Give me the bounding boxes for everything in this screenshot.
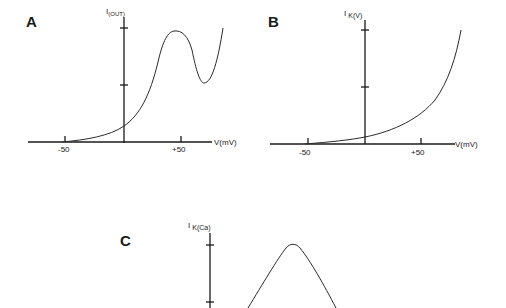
panel-c-curve — [248, 244, 336, 308]
panel-b-tick-neg-label: -50 — [299, 148, 311, 157]
panel-b-curve — [305, 30, 461, 144]
panel-a-curve — [62, 28, 223, 142]
panel-c: C IK(Ca) — [120, 221, 336, 308]
panel-a-letter: A — [26, 13, 37, 30]
panel-b-letter: B — [268, 13, 279, 30]
panel-b-xlabel: V(mV) — [455, 140, 478, 149]
panel-c-ylabel: IK(Ca) — [188, 221, 211, 232]
panel-a-tick-neg-label: -50 — [58, 145, 70, 154]
panel-c-letter: C — [120, 232, 131, 249]
panel-a-tick-pos-label: +50 — [172, 145, 186, 154]
panel-b: B IK(V) -50 +50 V(mV) — [268, 9, 478, 157]
panel-a-ylabel: I(OUT) — [106, 7, 125, 17]
panel-b-tick-pos-label: +50 — [411, 148, 425, 157]
panel-a-xlabel: V(mV) — [214, 138, 237, 147]
figure: A I(OUT) -50 +50 V(mV) B IK(V) -50 +50 V… — [0, 0, 506, 308]
panel-b-ylabel: IK(V) — [344, 9, 362, 20]
panel-a: A I(OUT) -50 +50 V(mV) — [26, 7, 237, 154]
